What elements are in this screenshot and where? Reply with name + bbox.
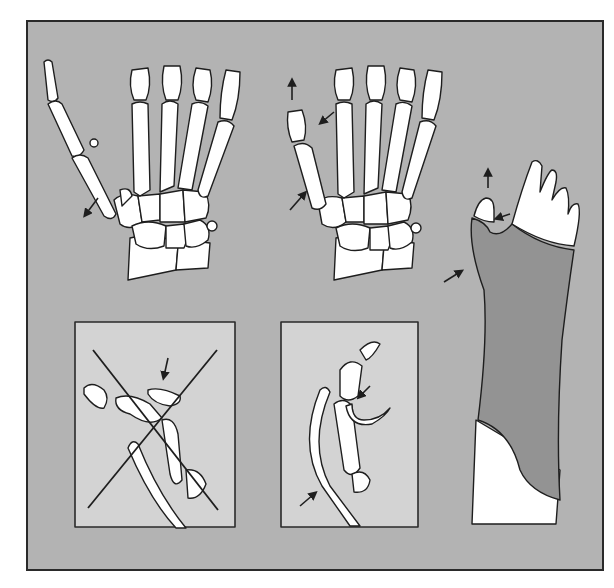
medical-illustration — [0, 0, 614, 588]
panel-incorrect-lateral — [75, 322, 235, 528]
panel-correct-lateral — [281, 322, 418, 527]
